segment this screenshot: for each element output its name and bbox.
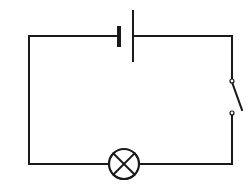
- battery-icon: [119, 10, 133, 62]
- lamp-icon: [109, 149, 139, 179]
- wire-bottom-right: [139, 115, 232, 164]
- wire-top-left: [29, 36, 119, 164]
- switch-icon: [230, 79, 242, 115]
- switch-lever: [232, 82, 242, 110]
- switch-contact-bottom: [230, 111, 234, 115]
- wire-top-right: [133, 36, 232, 79]
- circuit-diagram: [0, 0, 252, 190]
- circuit-wires: [29, 36, 232, 164]
- switch-contact-top: [230, 79, 234, 83]
